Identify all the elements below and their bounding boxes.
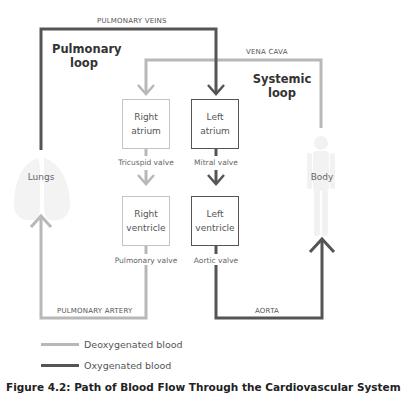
legend-label-oxygenated: Oxygenated blood [84, 360, 171, 371]
right-ventricle-line2: ventricle [126, 221, 165, 235]
systemic-loop-line1: Systemic [252, 72, 312, 86]
label-tricuspid-valve: Tricuspid valve [116, 158, 176, 167]
label-body: Body [303, 172, 341, 182]
right-ventricle-box: Right ventricle [122, 196, 170, 246]
lungs-illustration [14, 158, 70, 220]
label-aorta: AORTA [255, 307, 279, 315]
legend-swatch-oxygenated [41, 364, 79, 367]
figure-caption: Figure 4.2: Path of Blood Flow Through t… [6, 381, 401, 393]
left-ventricle-box: Left ventricle [191, 196, 239, 246]
right-ventricle-line1: Right [134, 207, 158, 221]
right-atrium-line1: Right [134, 110, 158, 124]
systemic-loop-line2: loop [252, 86, 312, 100]
right-atrium-line2: atrium [131, 124, 161, 138]
label-mitral-valve: Mitral valve [186, 158, 246, 167]
pulmonary-loop-title: Pulmonary loop [52, 42, 116, 70]
label-lungs: Lungs [22, 172, 60, 182]
label-pulmonary-valve: Pulmonary valve [112, 256, 180, 265]
legend-item-deoxygenated: Deoxygenated blood [41, 339, 183, 350]
left-atrium-line1: Left [207, 110, 224, 124]
legend-item-oxygenated: Oxygenated blood [41, 360, 171, 371]
pulmonary-loop-line2: loop [52, 56, 116, 70]
legend-label-deoxygenated: Deoxygenated blood [84, 339, 183, 350]
label-vena-cava: VENA CAVA [246, 48, 288, 56]
right-atrium-box: Right atrium [122, 99, 170, 149]
left-atrium-line2: atrium [200, 124, 230, 138]
systemic-loop-title: Systemic loop [252, 72, 312, 100]
left-ventricle-line2: ventricle [195, 221, 234, 235]
left-atrium-box: Left atrium [191, 99, 239, 149]
pulmonary-loop-line1: Pulmonary [52, 42, 116, 56]
label-aortic-valve: Aortic valve [186, 256, 246, 265]
label-pulmonary-artery: PULMONARY ARTERY [57, 307, 132, 315]
body-silhouette [307, 136, 335, 236]
label-pulmonary-veins: PULMONARY VEINS [97, 17, 167, 25]
legend-swatch-deoxygenated [41, 343, 79, 346]
left-ventricle-line1: Left [207, 207, 224, 221]
